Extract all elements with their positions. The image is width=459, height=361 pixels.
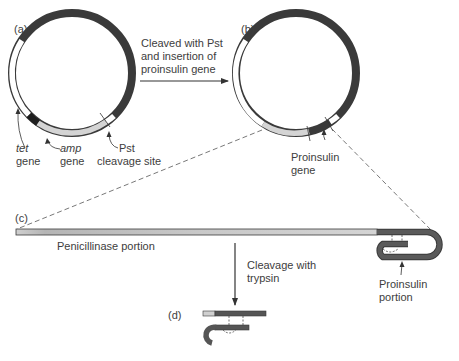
- tet-gene-label: gene: [16, 155, 40, 168]
- amp-gene-label: gene: [60, 155, 84, 168]
- dashed-line-left: [17, 130, 262, 229]
- proinsulin-gene-label-line2: gene: [291, 164, 315, 177]
- penicillinase-portion-label: Penicillinase portion: [57, 240, 155, 253]
- panel-label-a: (a): [14, 23, 27, 36]
- proinsulin-portion-label-line1: Proinsulin: [379, 278, 427, 291]
- plasmid-a: [12, 13, 132, 133]
- proinsulin-portion-label-line2: portion: [379, 291, 413, 304]
- step1-caption-line1: Cleaved with Pst: [141, 37, 223, 50]
- pst-cleavage-site-label: cleavage site: [97, 155, 161, 168]
- step2-caption-line1: Cleavage with: [247, 259, 316, 272]
- tet-label: tet: [16, 142, 28, 155]
- panel-label-c: (c): [15, 212, 28, 225]
- step2-caption-line2: trypsin: [247, 272, 279, 285]
- step1-caption-line3: proinsulin gene: [141, 63, 216, 76]
- panel-label-d: (d): [168, 309, 181, 322]
- dashed-line-right: [332, 129, 432, 231]
- diagram-graphics: [0, 0, 459, 361]
- pst-label: Pst: [119, 142, 135, 155]
- panel-label-b: (b): [241, 23, 254, 36]
- amp-label: amp: [60, 142, 81, 155]
- insulin-product-d: [203, 311, 266, 343]
- step1-caption-line2: and insertion of: [141, 50, 216, 63]
- proinsulin-gene-label-line1: Proinsulin: [291, 151, 339, 164]
